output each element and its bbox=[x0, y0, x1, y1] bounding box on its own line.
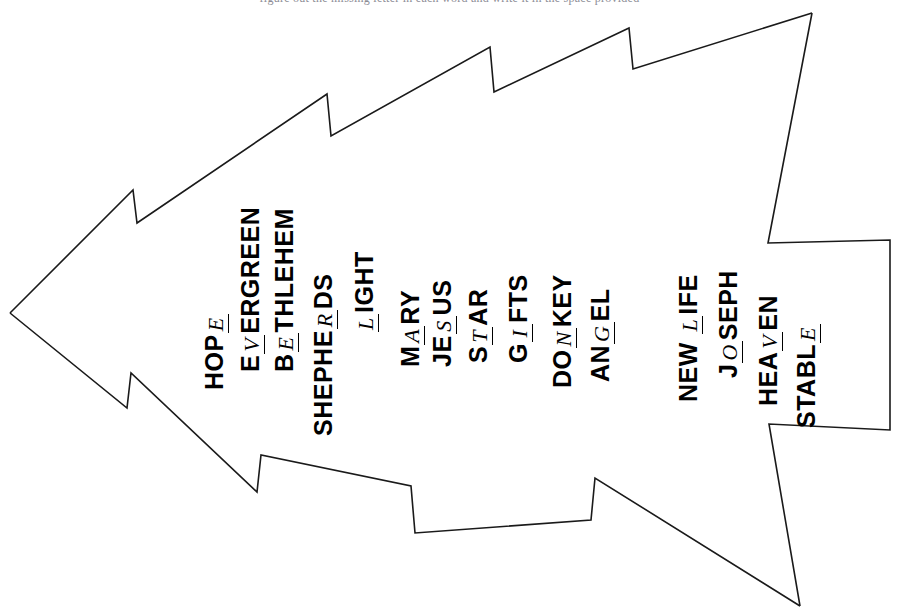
word-hope: HOPE bbox=[202, 313, 229, 390]
word-stable: STABLE bbox=[794, 323, 821, 428]
word-light-suffix: IGHT bbox=[350, 251, 378, 313]
word-stable-blank[interactable]: E bbox=[797, 324, 821, 343]
word-mary: MARY bbox=[398, 290, 425, 367]
word-star: STAR bbox=[466, 289, 493, 363]
word-jesus-blank[interactable]: S bbox=[433, 316, 457, 334]
word-mary-suffix: RY bbox=[396, 290, 424, 325]
word-heaven: HEAVEN bbox=[756, 295, 783, 406]
word-evergreen: EVERGREEN bbox=[238, 207, 265, 372]
word-new-life: NEW LIFE bbox=[676, 274, 703, 402]
word-bethlehem-blank[interactable]: E bbox=[275, 333, 299, 352]
word-mary-blank[interactable]: A bbox=[401, 326, 425, 345]
word-shepherds-prefix: SHEPHE bbox=[309, 330, 337, 436]
word-evergreen-blank[interactable]: V bbox=[241, 335, 265, 354]
word-heaven-prefix: HEA bbox=[754, 352, 782, 406]
word-jesus-suffix: US bbox=[428, 280, 456, 316]
word-donkey: DONKEY bbox=[550, 274, 577, 388]
word-evergreen-prefix: E bbox=[236, 355, 264, 372]
word-stable-prefix: STABL bbox=[792, 344, 820, 428]
word-gifts-suffix: FTS bbox=[504, 274, 532, 323]
word-star-suffix: AR bbox=[464, 289, 492, 326]
word-bethlehem-prefix: B bbox=[270, 353, 298, 372]
word-mary-prefix: M bbox=[396, 346, 424, 367]
word-joseph: JOSEPH bbox=[716, 270, 743, 378]
word-shepherds: SHEPHERDS bbox=[311, 274, 338, 437]
word-heaven-blank[interactable]: V bbox=[759, 332, 783, 351]
word-gifts-prefix: G bbox=[504, 343, 532, 363]
word-light: LIGHT bbox=[352, 251, 379, 333]
word-joseph-suffix: SEPH bbox=[714, 270, 742, 340]
word-bethlehem-suffix: THLEHEM bbox=[270, 208, 298, 332]
word-jesus: JESUS bbox=[430, 280, 457, 367]
word-donkey-blank[interactable]: N bbox=[553, 328, 577, 348]
word-angel-suffix: EL bbox=[586, 289, 614, 322]
word-angel-prefix: AN bbox=[586, 345, 614, 382]
word-new-life-blank[interactable]: L bbox=[679, 316, 703, 334]
word-star-blank[interactable]: T bbox=[469, 327, 493, 345]
word-heaven-suffix: EN bbox=[754, 295, 782, 331]
word-shepherds-suffix: DS bbox=[309, 274, 337, 310]
word-hope-prefix: HOP bbox=[200, 334, 228, 390]
word-donkey-prefix: DO bbox=[548, 350, 576, 389]
word-new-life-suffix: IFE bbox=[674, 274, 702, 314]
word-list: HOPE EVERGREEN BETHLEHEM SHEPHERDS LIGHT… bbox=[0, 0, 899, 614]
word-angel-blank[interactable]: G bbox=[591, 323, 615, 344]
word-light-blank[interactable]: L bbox=[355, 314, 379, 332]
word-donkey-suffix: KEY bbox=[548, 274, 576, 327]
word-gifts: GIFTS bbox=[506, 274, 533, 363]
word-shepherds-blank[interactable]: R bbox=[314, 310, 338, 329]
word-bethlehem: BETHLEHEM bbox=[272, 208, 299, 372]
word-joseph-blank[interactable]: O bbox=[719, 341, 743, 362]
word-new-life-prefix: NEW bbox=[674, 335, 702, 402]
word-joseph-prefix: J bbox=[714, 364, 742, 378]
word-gifts-blank[interactable]: I bbox=[509, 324, 533, 342]
word-hope-blank[interactable]: E bbox=[205, 314, 229, 333]
worksheet-page: figure out the missing letter in each wo… bbox=[0, 0, 899, 614]
word-angel: ANGEL bbox=[588, 289, 615, 382]
word-star-prefix: S bbox=[464, 346, 492, 363]
word-evergreen-suffix: ERGREEN bbox=[236, 207, 264, 334]
word-jesus-prefix: JE bbox=[428, 335, 456, 367]
